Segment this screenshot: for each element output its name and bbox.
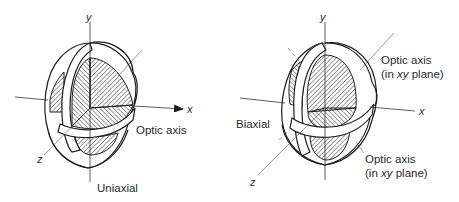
uniaxial-indicatrix: y x z Optic axis Uniaxial — [15, 11, 193, 194]
optic-axis-label: Optic axis — [136, 124, 187, 136]
x-axis-back — [240, 98, 285, 103]
optic-axis-top-line1: Optic axis — [381, 54, 432, 66]
optic-axis-bottom-sublabel: (in xy plane) — [365, 167, 428, 179]
optic-axis-line — [118, 50, 142, 76]
x-axis — [370, 107, 415, 111]
x-axis-label: x — [418, 105, 425, 117]
optic-axis-bottom-leader — [356, 142, 364, 153]
hatched-octant-upper-right — [90, 58, 133, 108]
y-axis-label: y — [319, 11, 327, 23]
optic-axis-bottom-line1: Optic axis — [365, 153, 416, 165]
optic-axis-top-label: Optic axis — [381, 54, 432, 66]
hatched-xy-plane-upper — [307, 55, 356, 112]
optic-axis-top-prefix: (in — [381, 68, 397, 80]
optic-axis-top-sublabel: (in xy plane) — [381, 68, 444, 80]
optic-axis-top-suffix: plane) — [408, 68, 443, 80]
optic-axis-left-dashed — [288, 48, 300, 62]
biaxial-indicatrix: y x z Optic axis (in xy plane) Biaxial O… — [236, 11, 444, 188]
y-axis-label: y — [85, 11, 93, 23]
optic-axis-bottom-prefix: (in — [365, 167, 381, 179]
biaxial-title: Biaxial — [236, 118, 270, 130]
optical-indicatrix-diagram: y x z Optic axis Uniaxial — [0, 0, 459, 202]
x-axis — [133, 106, 183, 109]
x-axis-label: x — [186, 103, 193, 115]
z-axis-label: z — [249, 176, 256, 188]
optic-axis-bottom-suffix: plane) — [392, 167, 427, 179]
x-axis-back — [15, 97, 48, 100]
uniaxial-title: Uniaxial — [97, 182, 138, 194]
optic-axis-bottom-label: Optic axis — [365, 153, 416, 165]
z-axis-label: z — [36, 153, 43, 165]
